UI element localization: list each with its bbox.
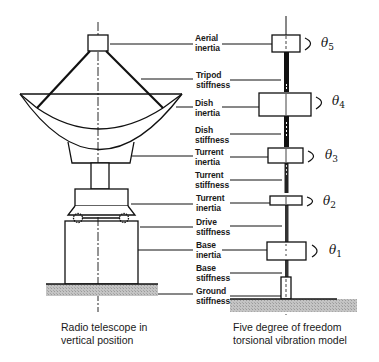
base-shaft	[285, 260, 289, 277]
radio-telescope-drawing	[20, 22, 182, 312]
label-ground-stiffness: Groundstiffness	[196, 287, 230, 306]
label-turret-inertia-2: Turrentinertia	[196, 194, 224, 213]
theta-1: θ1	[329, 243, 342, 259]
label-dish-inertia: Dishinertia	[195, 99, 220, 118]
theta-5: θ5	[321, 36, 334, 52]
leader-lines-left	[110, 44, 193, 294]
rotation-arrow-5	[305, 38, 311, 50]
theta-2: θ2	[323, 194, 336, 210]
aerial-box	[88, 35, 108, 51]
label-tripod-stiffness: Tripodstiffness	[196, 71, 230, 90]
rotation-arrow-2	[307, 197, 313, 206]
rotation-arrow-3	[308, 151, 314, 162]
torsional-model	[259, 16, 322, 315]
diagram-canvas	[0, 0, 379, 362]
ground-left	[46, 284, 158, 296]
turret-neck	[91, 163, 109, 189]
label-base-stiffness: Basestiffness	[196, 264, 230, 283]
ground-right	[230, 299, 357, 312]
caption-radio-telescope: Radio telescope invertical position	[61, 321, 147, 347]
label-base-inertia: Baseinertia	[196, 241, 221, 260]
rotation-arrow-4	[316, 97, 322, 109]
base	[65, 221, 138, 284]
rotation-arrow-1	[312, 245, 317, 257]
caption-vibration-model: Five degree of freedomtorsional vibratio…	[233, 321, 347, 347]
turret	[75, 189, 128, 206]
tripod-leg-left	[37, 51, 90, 108]
label-drive-stiffness: Drivestiffness	[196, 218, 230, 237]
dish-inertia-box	[259, 93, 311, 116]
turret-inertia-box	[268, 148, 303, 163]
label-turret-inertia: Turrentinertia	[195, 148, 223, 167]
base-inertia-box	[267, 242, 306, 260]
label-aerial-inertia: Aerialinertia	[195, 34, 220, 53]
label-dish-stiffness: Dishstiffness	[195, 126, 229, 145]
drive-shaft	[285, 205, 289, 242]
theta-4: θ4	[332, 94, 345, 110]
label-turret-stiffness: Turrentstiffness	[195, 171, 229, 190]
dish-inner	[37, 108, 163, 129]
theta-3: θ3	[325, 148, 338, 164]
turret-shaft	[285, 163, 289, 193]
